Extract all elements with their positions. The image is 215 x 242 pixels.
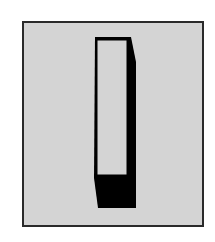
toggle-switch-icon[interactable] [0, 0, 215, 242]
switch-face [98, 41, 127, 175]
